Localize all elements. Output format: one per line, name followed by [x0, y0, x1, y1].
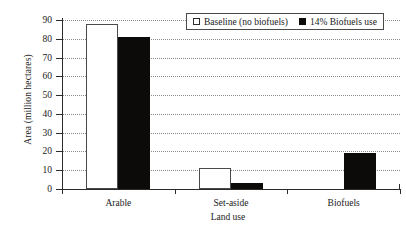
y-axis-tick-label: 80 [18, 34, 52, 44]
y-axis-tick-label: 0 [18, 184, 52, 194]
x-axis-category-label: Set-aside [176, 198, 286, 209]
x-axis-title: Land use [173, 212, 283, 223]
y-axis-tick-label: 90 [18, 15, 52, 25]
y-axis-tick-label: 10 [18, 165, 52, 175]
x-axis-tick [175, 189, 176, 194]
chart-legend: Baseline (no biofuels)14% Biofuels use [186, 13, 384, 30]
y-axis-tick-label: 50 [18, 90, 52, 100]
y-axis-tick-label: 60 [18, 71, 52, 81]
legend-entry: 14% Biofuels use [299, 17, 377, 27]
bar-set-aside-biofuels [231, 183, 263, 189]
legend-label: 14% Biofuels use [310, 17, 377, 27]
bar-biofuels-biofuels [344, 153, 376, 189]
y-axis-tick-label: 70 [18, 53, 52, 63]
y-axis-tick-label: 40 [18, 109, 52, 119]
y-axis-tick-label: 30 [18, 128, 52, 138]
legend-label: Baseline (no biofuels) [204, 17, 288, 27]
x-axis-category-label: Arable [63, 198, 173, 209]
bar-chart-figure: Area (million hectares) 9080706050403020… [0, 0, 406, 241]
x-axis-tick [287, 189, 288, 194]
x-axis-category-label: Biofuels [289, 198, 399, 209]
bar-arable-biofuels [118, 37, 150, 189]
y-axis-tick-label: 20 [18, 146, 52, 156]
y-axis-line [62, 18, 63, 190]
filled-square-icon [299, 18, 306, 25]
x-axis-tick [400, 189, 401, 194]
bar-arable-baseline [86, 24, 118, 189]
open-square-icon [193, 18, 200, 25]
legend-entry: Baseline (no biofuels) [193, 17, 288, 27]
bar-set-aside-baseline [199, 168, 231, 189]
x-axis-tick [62, 189, 63, 194]
x-axis-line [62, 189, 400, 190]
